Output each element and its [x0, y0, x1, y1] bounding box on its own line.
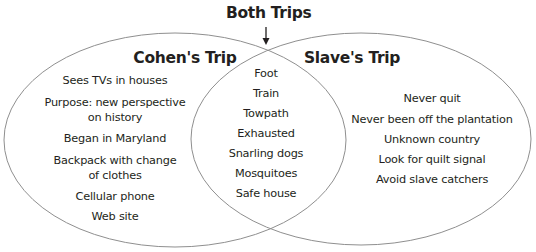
center-item: Exhausted [216, 127, 316, 141]
left-item: Backpack with change [40, 154, 190, 168]
center-item: Snarling dogs [216, 147, 316, 161]
center-item: Safe house [216, 187, 316, 201]
right-item: Never been off the plantation [347, 113, 517, 127]
cohens-trip-title: Cohen's Trip [130, 49, 240, 67]
right-item: Avoid slave catchers [347, 173, 517, 187]
right-item: Look for quilt signal [347, 153, 517, 167]
left-item: Cellular phone [40, 190, 190, 204]
left-item: Purpose: new perspective [40, 96, 190, 110]
center-item: Towpath [216, 107, 316, 121]
left-item: Began in Maryland [40, 132, 190, 146]
right-item: Never quit [347, 92, 517, 106]
slaves-trip-title: Slave's Trip [302, 49, 402, 67]
center-item: Mosquitoes [216, 167, 316, 181]
down-arrow-icon [263, 27, 270, 45]
left-item: on history [40, 111, 190, 125]
center-item: Foot [216, 67, 316, 81]
left-item: Web site [40, 210, 190, 224]
center-item: Train [216, 87, 316, 101]
both-trips-header: Both Trips [226, 4, 306, 22]
right-item: Unknown country [347, 133, 517, 147]
left-item: of clothes [40, 169, 190, 183]
left-item: Sees TVs in houses [40, 74, 190, 88]
